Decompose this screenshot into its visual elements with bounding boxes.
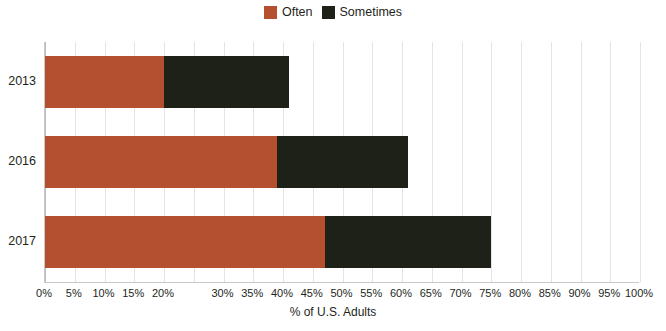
- bar-group-2017: [45, 216, 491, 268]
- x-axis-tick-70: 70%: [449, 287, 471, 299]
- chart-baseline: [44, 282, 639, 283]
- x-axis-tick-65: 65%: [420, 287, 442, 299]
- gridline: [640, 42, 641, 282]
- chart-plot-area: [44, 42, 639, 282]
- x-axis-tick-75: 75%: [479, 287, 501, 299]
- x-axis-tick-50: 50%: [330, 287, 352, 299]
- y-axis-tick-2013: 2013: [0, 74, 36, 88]
- x-axis-tick-10: 10%: [92, 287, 114, 299]
- legend-swatch-icon-often: [264, 6, 277, 19]
- bar-segment-often-2016: [45, 136, 277, 188]
- x-axis-tick-45: 45%: [301, 287, 323, 299]
- legend-item-sometimes: Sometimes: [322, 6, 403, 19]
- x-axis-tick-40: 40%: [271, 287, 293, 299]
- bar-segment-often-2013: [45, 56, 164, 108]
- x-axis-tick-35: 35%: [241, 287, 263, 299]
- chart-bars: [45, 42, 639, 282]
- bar-segment-sometimes-2016: [277, 136, 408, 188]
- bar-segment-often-2017: [45, 216, 325, 268]
- bar-group-2016: [45, 136, 408, 188]
- x-axis-tick-30: 30%: [211, 287, 233, 299]
- bar-segment-sometimes-2017: [325, 216, 492, 268]
- y-axis-tick-2016: 2016: [0, 154, 36, 168]
- x-axis-tick-95: 95%: [598, 287, 620, 299]
- chart-legend: Often Sometimes: [0, 6, 666, 19]
- legend-label-often: Often: [282, 6, 313, 19]
- legend-item-often: Often: [264, 6, 313, 19]
- x-axis-tick-90: 90%: [568, 287, 590, 299]
- x-axis-tick-100: 100%: [625, 287, 653, 299]
- bar-segment-sometimes-2013: [164, 56, 289, 108]
- x-axis-title: % of U.S. Adults: [0, 305, 666, 319]
- x-axis-tick-5: 5%: [66, 287, 82, 299]
- x-axis-tick-85: 85%: [539, 287, 561, 299]
- x-axis-tick-60: 60%: [390, 287, 412, 299]
- x-axis-tick-20: 20%: [152, 287, 174, 299]
- x-axis-tick-80: 80%: [509, 287, 531, 299]
- x-axis-tick-0: 0%: [36, 287, 52, 299]
- legend-swatch-icon-sometimes: [322, 6, 335, 19]
- y-axis-tick-2017: 2017: [0, 234, 36, 248]
- x-axis-tick-15: 15%: [122, 287, 144, 299]
- bar-group-2013: [45, 56, 289, 108]
- x-axis-tick-55: 55%: [360, 287, 382, 299]
- legend-label-sometimes: Sometimes: [340, 6, 403, 19]
